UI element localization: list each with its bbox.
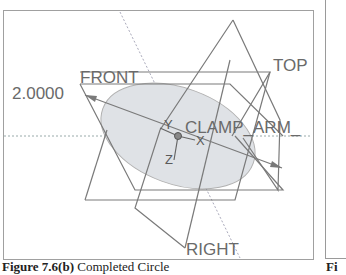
dimension-value[interactable]: 2.0000 [12,85,64,102]
x-axis-label: X [196,134,205,147]
csys-origin [175,133,182,140]
top-plane-label: TOP [273,57,308,74]
z-axis-label: Z [165,153,173,166]
front-plane-label: FRONT [80,69,139,86]
right-plane-label: RIGHT [186,241,239,258]
y-axis-label: Y [164,118,173,131]
figure-title: Completed Circle [74,259,169,274]
figure-number: Figure 7.6(b) [2,259,74,274]
figure-caption: Figure 7.6(b) Completed Circle [2,259,169,275]
next-figure-caption-fragment: Fi [326,259,338,275]
